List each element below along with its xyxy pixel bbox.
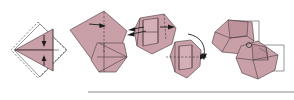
upper-triangle <box>15 29 53 50</box>
step-3-group <box>127 14 176 54</box>
lower-triangle <box>15 50 53 71</box>
origami-figure: Origami folding sequence Square rotated … <box>0 0 294 100</box>
inner-panel-4 <box>179 45 192 70</box>
lower-flap <box>91 43 127 72</box>
upper-lobe-panel <box>228 20 248 38</box>
step-2-group <box>70 11 127 72</box>
step-5-group <box>212 20 284 79</box>
origami-diagram-canvas <box>0 0 294 100</box>
step-1-group <box>11 22 67 78</box>
